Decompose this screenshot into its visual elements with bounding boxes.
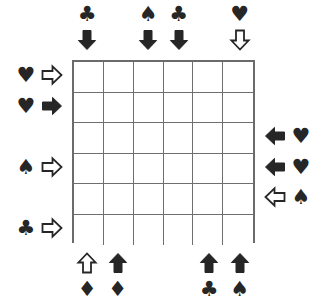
puzzle-grid[interactable] — [72, 60, 255, 243]
grid-cell-r5-c5[interactable] — [193, 184, 223, 215]
grid-cell-r5-c2[interactable] — [104, 184, 134, 215]
grid-cell-r6-c4[interactable] — [164, 215, 194, 246]
diamond-suit-icon: ♦ — [108, 279, 127, 300]
puzzle-canvas: ♣♠♣♥♥♥♠♣♥♥♠♦♦♣♠ — [0, 0, 316, 303]
arrow-up-filled-icon — [107, 252, 129, 274]
grid-cell-r3-c2[interactable] — [104, 123, 134, 154]
grid-cell-r3-c6[interactable] — [223, 123, 253, 154]
grid-cell-r3-c1[interactable] — [74, 123, 104, 154]
grid-cell-r4-c6[interactable] — [223, 154, 253, 185]
grid-cell-r1-c4[interactable] — [164, 62, 194, 93]
grid-cell-r3-c4[interactable] — [164, 123, 194, 154]
spade-suit-icon: ♠ — [230, 279, 249, 300]
grid-cell-r5-c3[interactable] — [134, 184, 164, 215]
club-suit-icon: ♣ — [200, 279, 219, 300]
grid-cell-r1-c2[interactable] — [104, 62, 134, 93]
heart-suit-icon: ♥ — [292, 126, 311, 147]
arrow-up-filled-icon — [229, 252, 251, 274]
grid-cell-r2-c2[interactable] — [104, 93, 134, 124]
arrow-down-filled-icon — [168, 29, 190, 51]
grid-cell-r2-c5[interactable] — [193, 93, 223, 124]
arrow-left-filled-icon — [264, 125, 286, 147]
grid-cell-r6-c2[interactable] — [104, 215, 134, 246]
grid-row — [74, 154, 253, 185]
grid-cell-r4-c3[interactable] — [134, 154, 164, 185]
grid-cell-r5-c4[interactable] — [164, 184, 194, 215]
grid-cell-r5-c1[interactable] — [74, 184, 104, 215]
spade-suit-icon: ♠ — [139, 4, 158, 25]
arrow-down-filled-icon — [76, 29, 98, 51]
grid-cell-r4-c2[interactable] — [104, 154, 134, 185]
grid-cell-r1-c6[interactable] — [223, 62, 253, 93]
grid-cell-r1-c5[interactable] — [193, 62, 223, 93]
heart-suit-icon: ♥ — [17, 95, 36, 116]
grid-row — [74, 184, 253, 215]
grid-cell-r2-c3[interactable] — [134, 93, 164, 124]
grid-cell-r1-c3[interactable] — [134, 62, 164, 93]
grid-cell-r4-c1[interactable] — [74, 154, 104, 185]
spade-suit-icon: ♠ — [292, 187, 311, 208]
grid-cell-r1-c1[interactable] — [74, 62, 104, 93]
arrow-left-filled-icon — [264, 156, 286, 178]
grid-cell-r3-c5[interactable] — [193, 123, 223, 154]
diamond-suit-icon: ♦ — [78, 279, 97, 300]
grid-cell-r6-c6[interactable] — [223, 215, 253, 246]
grid-cell-r6-c1[interactable] — [74, 215, 104, 246]
grid-row — [74, 215, 253, 246]
grid-row — [74, 62, 253, 93]
grid-cell-r5-c6[interactable] — [223, 184, 253, 215]
heart-suit-icon: ♥ — [17, 65, 36, 86]
grid-cell-r6-c3[interactable] — [134, 215, 164, 246]
arrow-left-hollow-icon — [264, 186, 286, 208]
heart-suit-icon: ♥ — [292, 156, 311, 177]
grid-cell-r2-c6[interactable] — [223, 93, 253, 124]
grid-cell-r6-c5[interactable] — [193, 215, 223, 246]
arrow-right-filled-icon — [41, 95, 63, 117]
arrow-right-hollow-icon — [41, 217, 63, 239]
grid-cell-r2-c1[interactable] — [74, 93, 104, 124]
grid-row — [74, 93, 253, 124]
grid-cell-r3-c3[interactable] — [134, 123, 164, 154]
arrow-up-hollow-icon — [76, 252, 98, 274]
arrow-right-hollow-icon — [41, 64, 63, 86]
grid-cell-r4-c5[interactable] — [193, 154, 223, 185]
club-suit-icon: ♣ — [169, 4, 188, 25]
arrow-down-filled-icon — [137, 29, 159, 51]
grid-row — [74, 123, 253, 154]
arrow-down-hollow-icon — [229, 29, 251, 51]
arrow-up-filled-icon — [198, 252, 220, 274]
spade-suit-icon: ♠ — [17, 156, 36, 177]
heart-suit-icon: ♥ — [230, 4, 249, 25]
club-suit-icon: ♣ — [17, 217, 36, 238]
club-suit-icon: ♣ — [78, 4, 97, 25]
grid-cell-r4-c4[interactable] — [164, 154, 194, 185]
grid-cell-r2-c4[interactable] — [164, 93, 194, 124]
arrow-right-hollow-icon — [41, 156, 63, 178]
